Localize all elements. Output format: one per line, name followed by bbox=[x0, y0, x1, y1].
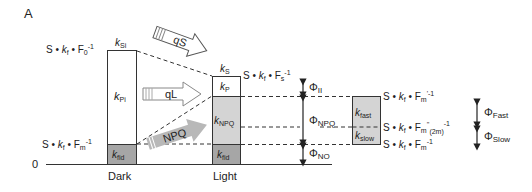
light-top-k: kS bbox=[220, 63, 230, 75]
phi-slow-label: ΦSlow bbox=[484, 130, 510, 144]
qs-arrow: qS bbox=[151, 21, 211, 62]
phi-npq-label: ΦNPQ bbox=[309, 114, 335, 128]
eq-relax-fm-2m: S • kf • Fm''(2m)-1 bbox=[383, 120, 450, 136]
light-relax-connectors bbox=[241, 97, 352, 145]
eq-dark-fm: S • kf • Fm-1 bbox=[42, 138, 92, 151]
dark-top-k: kSi bbox=[115, 37, 127, 49]
ql-label: qL bbox=[165, 88, 177, 100]
phi-fast-label: ΦFast bbox=[484, 106, 509, 120]
zero-label: 0 bbox=[32, 158, 38, 170]
light-label: Light bbox=[213, 170, 237, 182]
phi-no-label: ΦNO bbox=[309, 147, 330, 161]
npq-arrow: NPQ bbox=[144, 113, 210, 155]
eq-relax-fm: S • kf • Fm-1 bbox=[383, 138, 433, 151]
panel-label: A bbox=[24, 6, 33, 21]
phi-ii-label: ΦII bbox=[309, 81, 322, 95]
eq-relax-fm-prime: S • kf • Fm'-1 bbox=[383, 90, 434, 103]
dark-label: Dark bbox=[108, 170, 132, 182]
eq-dark-fo: S • kf • F0-1 bbox=[46, 43, 94, 56]
eq-light-fs: S • kf • Fs-1 bbox=[243, 69, 291, 82]
dark-bar bbox=[108, 51, 137, 165]
ql-arrow: qL bbox=[143, 82, 201, 106]
npq-arrow-label: NPQ bbox=[161, 126, 188, 145]
npq-quenching-diagram: A 0 kSi kPi kfid Dark S • kf • F0-1 S • … bbox=[0, 0, 532, 192]
